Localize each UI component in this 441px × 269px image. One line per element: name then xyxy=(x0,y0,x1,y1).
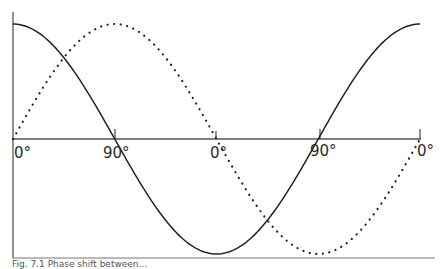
tick-label-270: 90° xyxy=(310,142,337,160)
axis-ticks xyxy=(115,129,420,139)
tick-label-90: 90° xyxy=(103,144,130,162)
tick-label-0: 0° xyxy=(14,144,31,162)
tick-label-360: 0° xyxy=(417,142,434,160)
tick-label-180: 0° xyxy=(210,144,227,162)
figure-caption: Fig. 7.1 Phase shift between... xyxy=(12,259,147,269)
